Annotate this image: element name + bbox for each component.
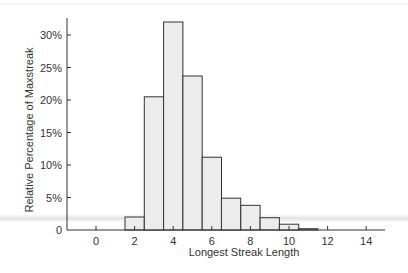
histogram-bar: [221, 198, 240, 230]
histogram-bar: [144, 97, 163, 230]
y-tick-label: 25%: [40, 62, 62, 74]
y-tick-label: 20%: [40, 94, 62, 106]
histogram-bar: [202, 157, 221, 230]
y-tick-label: 15%: [40, 127, 62, 139]
histogram-chart: 05%10%15%20%25%30%02468101214 Longest St…: [0, 0, 408, 273]
x-tick-label: 4: [170, 235, 176, 247]
x-tick-label: 14: [360, 235, 372, 247]
y-axis-label: Relative Percentage of Maxstreak: [23, 47, 35, 213]
histogram-bar: [183, 76, 202, 230]
y-tick-label: 10%: [40, 159, 62, 171]
bars-group: [125, 22, 318, 230]
x-tick-label: 0: [93, 235, 99, 247]
x-tick-label: 2: [132, 235, 138, 247]
x-tick-label: 12: [321, 235, 333, 247]
y-tick-label: 30%: [40, 29, 62, 41]
y-tick-label: 0: [56, 224, 62, 236]
y-tick-label: 5%: [46, 192, 62, 204]
histogram-bar: [260, 218, 279, 230]
x-axis-label: Longest Streak Length: [189, 246, 300, 258]
histogram-bar: [164, 22, 183, 230]
